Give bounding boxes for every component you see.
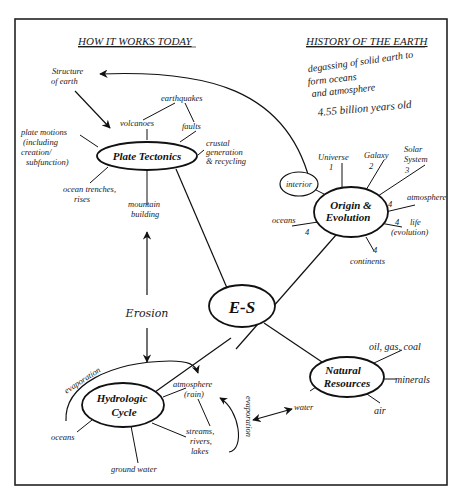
air-label: air [374, 405, 386, 416]
galaxy-number: 2 [369, 161, 374, 171]
water-double-arrow [253, 409, 292, 420]
concept-map: HOW IT WORKS TODAY HISTORY OF THE EARTH … [0, 0, 459, 502]
continents-number: 4 [373, 245, 378, 255]
minerals-label: minerals [395, 374, 430, 385]
universe-number: 1 [329, 162, 333, 172]
galaxy-label: Galaxy [364, 150, 389, 160]
continents-label: continents [350, 256, 386, 266]
volcanoes-label: volcanoes [120, 118, 155, 128]
plate-motions-label-4: subfunction) [26, 157, 69, 167]
plate-motions-label-2: (including [23, 137, 58, 147]
trenches-label-2: rises [74, 194, 91, 204]
evaporation-right-arrow [220, 398, 239, 452]
oil-gas-coal-label: oil, gas, coal [369, 341, 421, 352]
history-arc-arrow [100, 73, 312, 190]
streams-label: streams, [186, 426, 214, 436]
lakes-label: lakes [191, 446, 209, 456]
life-label: life [410, 217, 421, 227]
structure-arrow [75, 91, 110, 128]
hydro-rain-label: (rain) [184, 389, 204, 399]
structure-label: Structure [52, 66, 84, 76]
trenches-label: ocean trenches, [63, 184, 116, 194]
crustal-label-3: & recycling [206, 156, 246, 166]
solar-label: Solar [404, 144, 423, 154]
hydro-atmosphere-label: atmosphere [173, 379, 213, 389]
earthquakes-label: earthquakes [161, 93, 203, 103]
universe-label: Universe [318, 152, 349, 162]
hydro-oceans-label: oceans [51, 432, 75, 442]
mountain-label-2: building [131, 209, 159, 219]
cycle-label: Cycle [111, 406, 136, 418]
center-label: E-S [228, 298, 255, 317]
solar-label-2: System [404, 154, 428, 164]
ground-water-label: ground water [111, 464, 157, 474]
evaporation-right-label: evaporation [244, 396, 254, 437]
origin-oceans-label: oceans [272, 215, 296, 225]
hydrologic-label: Hydrologic [96, 392, 148, 404]
life-label-2: (evolution) [391, 227, 428, 237]
node-hydrologic-cycle [82, 383, 164, 427]
plate-motions-label: plate motions [20, 127, 68, 137]
header-history: HISTORY OF THE EARTH [305, 35, 429, 47]
mountain-label: mountain [128, 199, 160, 209]
faults-label: faults [182, 121, 202, 131]
plate-motions-label-3: creation/ [21, 147, 53, 157]
plate-tectonics-label: Plate Tectonics [113, 150, 181, 162]
life-number: 4 [395, 217, 400, 227]
earth-age: 4.55 billion years old [317, 98, 412, 118]
oceans-number: 4 [305, 227, 310, 237]
origin-atmosphere-label: atmosphere [407, 192, 447, 202]
structure-label-2: of earth [51, 76, 78, 86]
interior-label: interior [286, 179, 313, 189]
header-how-it-works: HOW IT WORKS TODAY [77, 35, 193, 47]
atmosphere-number: 4 [388, 199, 393, 209]
history-note-line1: degassing of solid earth to [307, 49, 414, 75]
rivers-label: rivers, [190, 436, 212, 446]
water-label: water [294, 402, 314, 412]
erosion-label: Erosion [125, 307, 169, 320]
solar-number: 3 [404, 165, 409, 175]
resources-label: Resources [323, 377, 370, 389]
natural-label: Natural [324, 364, 361, 376]
evolution-label: Evolution [325, 211, 371, 223]
origin-label: Origin & [330, 199, 372, 211]
